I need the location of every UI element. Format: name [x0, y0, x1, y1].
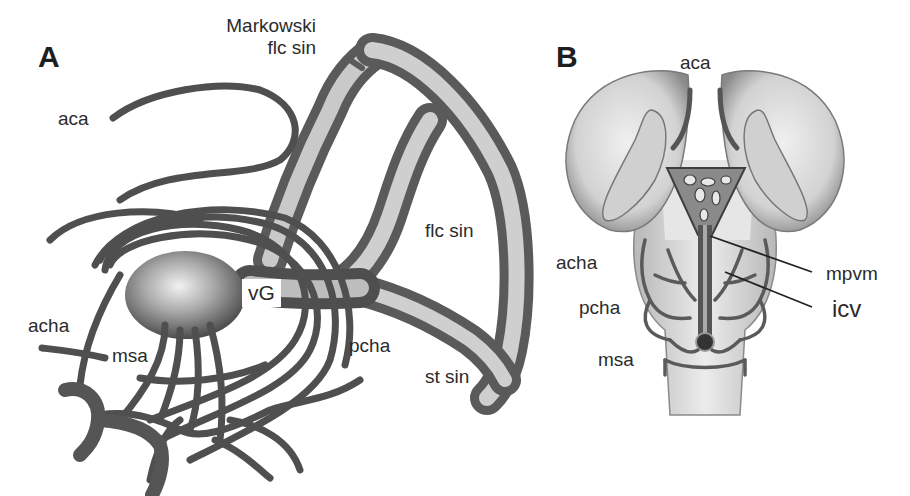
label-vg: vG — [242, 279, 281, 307]
panel-a: A Markowski flc sin aca flc sin vG acha … — [0, 0, 540, 496]
label-acha-a: acha — [28, 316, 69, 335]
label-st-sin: st sin — [425, 367, 469, 386]
panel-b: B aca acha pcha msa mpvm icv — [540, 0, 910, 496]
label-aca-a: aca — [58, 109, 89, 128]
label-msa-b: msa — [598, 350, 634, 369]
label-acha-b: acha — [556, 253, 597, 272]
label-markowski-line2: flc sin — [226, 38, 316, 57]
label-pcha-b: pcha — [579, 298, 620, 317]
panel-letter-b: B — [556, 40, 578, 74]
panel-letter-a: A — [38, 40, 60, 74]
label-mpvm: mpvm — [826, 264, 878, 283]
label-markowski-line1: Markowski — [226, 16, 316, 35]
label-pcha-a: pcha — [349, 336, 390, 355]
brain-dorsal-illustration — [540, 0, 910, 496]
label-msa-a: msa — [112, 346, 148, 365]
label-icv: icv — [832, 297, 861, 321]
venous-sinus-illustration — [0, 0, 540, 496]
label-flc-sin: flc sin — [425, 221, 474, 240]
vein-of-galen-shape — [125, 251, 245, 339]
label-markowski: Markowski flc sin — [226, 16, 316, 57]
label-aca-b: aca — [680, 53, 711, 72]
